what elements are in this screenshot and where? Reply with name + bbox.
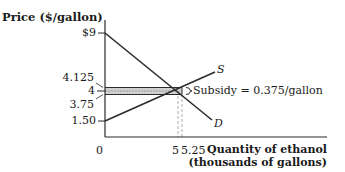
x-tick-5: 5 <box>172 145 179 157</box>
leader-4125 <box>96 83 103 88</box>
y-tick-9: $9 <box>70 27 96 39</box>
x-axis-title-line2: (thousands of gallons) <box>180 157 327 169</box>
y-tick-4125: 4.125 <box>50 72 94 84</box>
y-tick-4: 4 <box>70 85 95 97</box>
subsidy-label: Subsidy = 0.375/gallon <box>193 85 323 97</box>
subsidy-brace <box>186 88 192 95</box>
leader-375 <box>96 95 103 100</box>
x-tick-0: 0 <box>96 145 103 157</box>
y-tick-375: 3.75 <box>50 99 94 111</box>
demand-curve <box>105 33 212 120</box>
y-axis-title: Price ($/gallon) <box>2 11 103 23</box>
y-tick-150: 1.50 <box>50 115 96 127</box>
demand-label: D <box>214 118 223 130</box>
supply-label: S <box>217 64 225 76</box>
x-axis-title-line1: Quantity of ethanol <box>200 144 327 156</box>
